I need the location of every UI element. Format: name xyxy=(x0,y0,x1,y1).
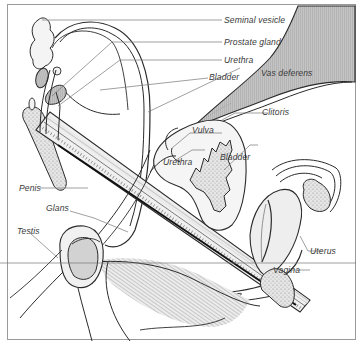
anatomy-illustration xyxy=(0,0,363,347)
label-vagina: Vagina xyxy=(273,265,300,275)
label-prostate-gland: Prostate gland xyxy=(224,37,281,47)
label-vas-deferens: Vas deferens xyxy=(261,68,313,78)
label-urethra-male: Urethra xyxy=(224,55,253,65)
label-bladder-female: Bladder xyxy=(220,152,250,162)
label-urethra-female: Urethra xyxy=(163,157,192,167)
label-penis: Penis xyxy=(19,183,41,193)
label-uterus: Uterus xyxy=(310,246,336,256)
label-glans: Glans xyxy=(46,203,69,213)
seminal-vesicle xyxy=(30,18,54,69)
label-clitoris: Clitoris xyxy=(262,107,289,117)
ovary xyxy=(303,179,330,211)
label-vulva: Vulva xyxy=(192,125,214,135)
label-seminal-vesicle: Seminal vesicle xyxy=(224,15,285,25)
perineum-region xyxy=(100,258,250,327)
male-leg-line-1 xyxy=(78,288,92,341)
label-bladder-male: Bladder xyxy=(209,72,239,82)
label-testis: Testis xyxy=(17,226,40,236)
